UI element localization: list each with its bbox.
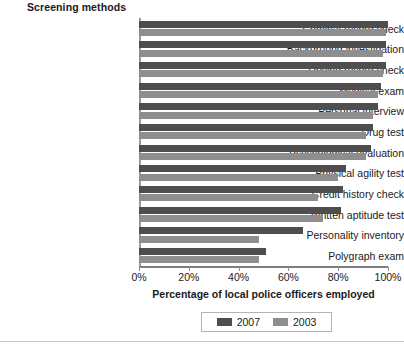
y-axis-title: Screening methods — [27, 1, 126, 13]
bar-2003 — [139, 153, 366, 160]
legend-item-2003: 2003 — [273, 317, 316, 328]
legend-item-2007: 2007 — [217, 317, 260, 328]
x-axis-line — [139, 266, 388, 268]
bar-2003 — [139, 174, 338, 181]
bar-2007 — [139, 165, 346, 172]
bar-2007 — [139, 83, 381, 90]
bar-2007 — [139, 145, 371, 152]
bar-2003 — [139, 112, 373, 119]
bar-2003 — [139, 215, 323, 222]
bottom-divider — [0, 341, 404, 342]
x-tick-label: 60% — [278, 271, 299, 283]
bar-chart: Screening methods Percentage of local po… — [0, 0, 404, 346]
legend-label: 2007 — [237, 317, 260, 328]
bar-2003 — [139, 132, 366, 139]
bar-2003 — [139, 236, 259, 243]
x-axis-title: Percentage of local police officers empl… — [139, 288, 388, 300]
bar-2003 — [139, 194, 318, 201]
x-tick-label: 80% — [328, 271, 349, 283]
bar-2007 — [139, 62, 386, 69]
bar-2003 — [139, 91, 378, 98]
bar-2007 — [139, 41, 386, 48]
bar-2007 — [139, 103, 378, 110]
bar-2007 — [139, 207, 341, 214]
bar-2007 — [139, 248, 266, 255]
bar-2007 — [139, 21, 388, 28]
x-tick-label: 100% — [375, 271, 402, 283]
legend-swatch — [217, 318, 232, 326]
x-tick-label: 40% — [228, 271, 249, 283]
bar-2007 — [139, 186, 343, 193]
legend-swatch — [273, 318, 288, 326]
bar-2003 — [139, 70, 383, 77]
legend-label: 2003 — [293, 317, 316, 328]
bar-2007 — [139, 124, 373, 131]
x-tick-label: 0% — [131, 271, 146, 283]
bar-2003 — [139, 256, 259, 263]
x-tick-label: 20% — [178, 271, 199, 283]
bar-2003 — [139, 50, 383, 57]
category-label: Polygraph exam — [267, 251, 404, 262]
bar-2003 — [139, 29, 386, 36]
chart-legend: 20072003 — [201, 312, 332, 332]
bar-2007 — [139, 227, 303, 234]
